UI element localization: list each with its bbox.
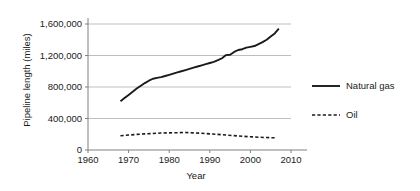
legend-label-oil: Oil [346,109,358,120]
y-axis-title: Pipeline length (miles) [21,33,32,126]
series-lines [120,29,278,138]
y-tick-label: 400,000 [48,113,82,124]
x-tick-label: 1970 [118,154,139,165]
x-axis-title: Year [186,170,205,181]
pipeline-length-line-chart: 0400,000800,0001,200,0001,600,000 196019… [0,0,420,191]
x-axis-tick-labels: 196019701980199020002010 [77,150,301,165]
x-tick-label: 2010 [280,154,301,165]
x-tick-label: 1980 [159,154,180,165]
y-tick-label: 1,600,000 [40,18,82,29]
x-tick-label: 1960 [77,154,98,165]
series-line-natural-gas [120,29,278,101]
y-tick-label: 1,200,000 [40,50,82,61]
y-tick-label: 800,000 [48,81,82,92]
y-axis-tick-labels: 0400,000800,0001,200,0001,600,000 [40,18,88,155]
gridlines [88,24,291,119]
legend-label-natural-gas: Natural gas [346,80,395,91]
series-line-oil [120,133,274,138]
chart-container: 0400,000800,0001,200,0001,600,000 196019… [0,0,420,191]
legend: Natural gasOil [312,80,395,120]
x-tick-label: 1990 [199,154,220,165]
x-tick-label: 2000 [240,154,261,165]
